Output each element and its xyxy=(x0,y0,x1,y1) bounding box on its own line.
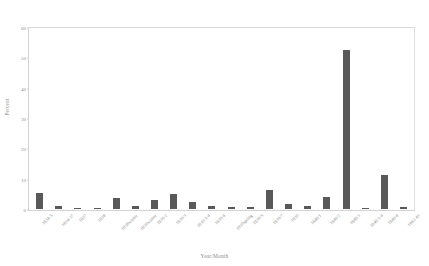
bar-slot xyxy=(30,29,49,209)
x-tick-slot: 1837 xyxy=(68,212,87,252)
y-tick-mark xyxy=(27,28,29,29)
bar-slot xyxy=(375,29,394,209)
y-axis-title: Percent xyxy=(4,72,10,142)
bar[interactable] xyxy=(381,175,388,209)
bar-slot xyxy=(298,29,317,209)
bar-series xyxy=(30,29,413,209)
bar-slot xyxy=(183,29,202,209)
bar[interactable] xyxy=(266,190,273,210)
bar[interactable] xyxy=(151,200,158,209)
x-tick-slot: 1840/4 xyxy=(376,212,395,252)
plot-area: 0102030405060 xyxy=(28,27,415,211)
x-tick-slot: 1838winter xyxy=(106,212,125,252)
x-tick-slot: 1839spring xyxy=(222,212,241,252)
bar-chart: Percent 0102030405060 1834-51834-3718371… xyxy=(0,0,429,266)
bar-slot xyxy=(222,29,241,209)
bar[interactable] xyxy=(94,208,101,209)
bar-slot xyxy=(164,29,183,209)
bar[interactable] xyxy=(400,207,407,209)
bar-slot xyxy=(49,29,68,209)
x-tick-slot: 1834-37 xyxy=(48,212,67,252)
x-tick-slot: 1839winter xyxy=(125,212,144,252)
bar[interactable] xyxy=(36,193,43,209)
x-axis-title: Year/Month xyxy=(0,253,429,259)
x-tick-slot: 1839/3-4 xyxy=(183,212,202,252)
bar-slot xyxy=(145,29,164,209)
x-tick-slot: 1834-5 xyxy=(29,212,48,252)
y-tick-mark xyxy=(27,210,29,211)
bar-slot xyxy=(279,29,298,209)
x-tick-slot: 1839/5 xyxy=(241,212,260,252)
bar[interactable] xyxy=(189,202,196,209)
x-tick-slot: 1839/4 xyxy=(202,212,221,252)
bar[interactable] xyxy=(74,208,81,210)
bar-slot xyxy=(337,29,356,209)
bar[interactable] xyxy=(362,208,369,210)
x-tick-slot: 1839/3 xyxy=(164,212,183,252)
bar-slot xyxy=(202,29,221,209)
bar[interactable] xyxy=(285,204,292,209)
bar[interactable] xyxy=(304,206,311,209)
bar-slot xyxy=(356,29,375,209)
y-tick-mark xyxy=(27,179,29,180)
bar-slot xyxy=(87,29,106,209)
x-axis-ticks: 1834-51834-37183718381838winter1839winte… xyxy=(29,212,414,252)
y-tick-mark xyxy=(27,88,29,89)
x-tick-slot: 1840/3 xyxy=(337,212,356,252)
bar[interactable] xyxy=(113,198,120,209)
bar-slot xyxy=(394,29,413,209)
y-tick-mark xyxy=(27,119,29,120)
bar[interactable] xyxy=(247,207,254,209)
x-tick-slot: 1839/7 xyxy=(260,212,279,252)
bar-slot xyxy=(317,29,336,209)
y-tick-mark xyxy=(27,58,29,59)
bar[interactable] xyxy=(208,206,215,209)
bar[interactable] xyxy=(132,206,139,209)
x-tick-label: 1842-43 xyxy=(407,213,421,227)
bar-slot xyxy=(260,29,279,209)
bar-slot xyxy=(241,29,260,209)
x-tick-slot: 1838 xyxy=(87,212,106,252)
y-tick-mark xyxy=(27,149,29,150)
bar-slot xyxy=(107,29,126,209)
bar[interactable] xyxy=(170,194,177,209)
bar[interactable] xyxy=(228,207,235,209)
bar[interactable] xyxy=(343,50,350,209)
x-tick-slot: 1840/2 xyxy=(318,212,337,252)
x-tick-slot: 1839/2 xyxy=(145,212,164,252)
bar-slot xyxy=(68,29,87,209)
bar[interactable] xyxy=(323,197,330,209)
bar-slot xyxy=(126,29,145,209)
x-tick-slot: 1839 xyxy=(279,212,298,252)
x-tick-slot: 1842-43 xyxy=(395,212,414,252)
x-tick-slot: 1840/1 xyxy=(299,212,318,252)
bar[interactable] xyxy=(55,206,62,209)
x-tick-slot: 1840/3-4 xyxy=(356,212,375,252)
